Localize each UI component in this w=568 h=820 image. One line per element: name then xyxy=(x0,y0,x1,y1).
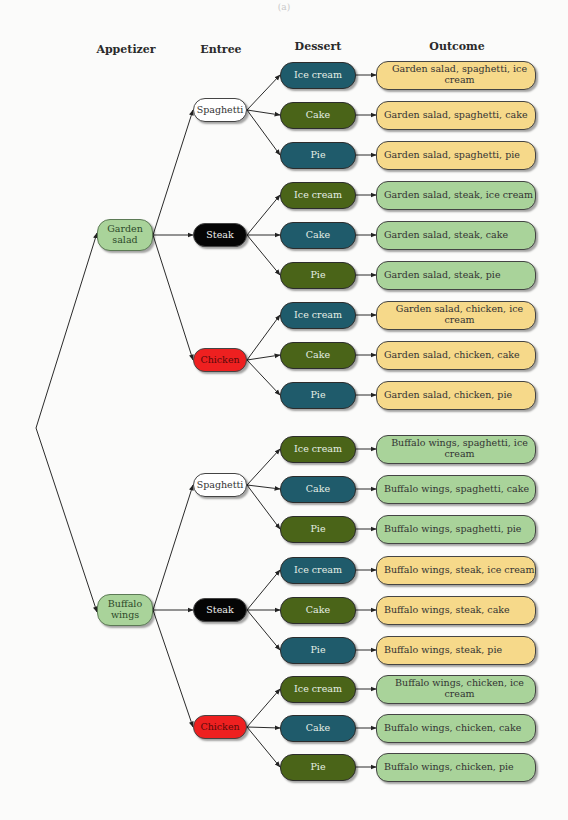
dessert-node-cake: Cake xyxy=(280,342,356,369)
outcome-node: Buffalo wings, steak, ice cream xyxy=(376,556,536,585)
dessert-node-ice-cream: Ice cream xyxy=(280,302,356,329)
outcome-node: Buffalo wings, spaghetti, pie xyxy=(376,515,536,544)
dessert-node-ice-cream: Ice cream xyxy=(280,436,356,463)
dessert-node-ice-cream: Ice cream xyxy=(280,557,356,584)
outcome-node: Garden salad, chicken, pie xyxy=(376,381,536,410)
outcome-node: Garden salad, chicken, cake xyxy=(376,341,536,370)
entree-node-steak: Steak xyxy=(193,598,247,622)
outcome-node: Buffalo wings, chicken, pie xyxy=(376,753,536,782)
outcome-node: Garden salad, steak, cake xyxy=(376,221,536,250)
outcome-node: Garden salad, spaghetti, cake xyxy=(376,101,536,130)
outcome-node: Garden salad, spaghetti, ice cream xyxy=(376,61,536,90)
outcome-node: Buffalo wings, steak, pie xyxy=(376,636,536,665)
dessert-node-pie: Pie xyxy=(280,516,356,543)
dessert-node-pie: Pie xyxy=(280,142,356,169)
dessert-node-ice-cream: Ice cream xyxy=(280,182,356,209)
dessert-node-cake: Cake xyxy=(280,715,356,742)
dessert-node-cake: Cake xyxy=(280,102,356,129)
dessert-node-pie: Pie xyxy=(280,382,356,409)
outcome-node: Garden salad, steak, ice cream xyxy=(376,181,536,210)
outcome-node: Buffalo wings, steak, cake xyxy=(376,596,536,625)
appetizer-node-garden-salad: Garden salad xyxy=(97,219,153,251)
dessert-node-pie: Pie xyxy=(280,754,356,781)
dessert-node-cake: Cake xyxy=(280,476,356,503)
outcome-node: Buffalo wings, chicken, cake xyxy=(376,714,536,743)
entree-node-chicken: Chicken xyxy=(193,715,247,739)
outcome-node: Buffalo wings, spaghetti, ice cream xyxy=(376,435,536,464)
dessert-node-pie: Pie xyxy=(280,262,356,289)
entree-node-spaghetti: Spaghetti xyxy=(193,98,247,122)
outcome-node: Garden salad, chicken, ice cream xyxy=(376,301,536,330)
outcome-node: Buffalo wings, spaghetti, cake xyxy=(376,475,536,504)
dessert-node-ice-cream: Ice cream xyxy=(280,676,356,703)
dessert-node-ice-cream: Ice cream xyxy=(280,62,356,89)
dessert-node-pie: Pie xyxy=(280,637,356,664)
outcome-node: Buffalo wings, chicken, ice cream xyxy=(376,675,536,704)
entree-node-steak: Steak xyxy=(193,223,247,247)
outcome-node: Garden salad, steak, pie xyxy=(376,261,536,290)
dessert-node-cake: Cake xyxy=(280,597,356,624)
entree-node-chicken: Chicken xyxy=(193,348,247,372)
entree-node-spaghetti: Spaghetti xyxy=(193,473,247,497)
dessert-node-cake: Cake xyxy=(280,222,356,249)
outcome-node: Garden salad, spaghetti, pie xyxy=(376,141,536,170)
appetizer-node-buffalo-wings: Buffalo wings xyxy=(97,594,153,626)
